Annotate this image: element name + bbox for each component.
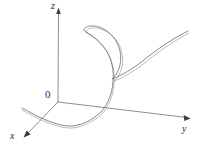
- x-axis-label: x: [10, 131, 14, 141]
- z-axis: [56, 8, 61, 103]
- z-axis-line: [58, 12, 59, 102]
- z-axis-arrow-icon: [56, 8, 61, 15]
- x-axis-line: [28, 102, 59, 134]
- y-axis-label: y: [182, 124, 186, 134]
- origin-label: 0: [45, 89, 51, 100]
- figure-canvas: [0, 0, 201, 154]
- space-curve-figure: z y x 0: [0, 0, 201, 154]
- y-axis-line: [58, 102, 185, 117]
- y-axis-arrow-icon: [184, 115, 191, 121]
- y-axis: [58, 102, 191, 121]
- space-curve: [22, 26, 188, 126]
- z-axis-label: z: [51, 1, 55, 11]
